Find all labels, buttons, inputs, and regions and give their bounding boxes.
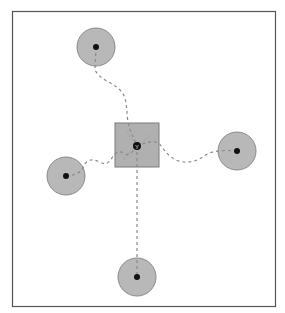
node-left-dot [63, 173, 69, 179]
node-bottom-dot [134, 274, 140, 280]
node-top-dot [93, 44, 99, 50]
diagram-canvas: Y [0, 0, 285, 313]
node-right-dot [234, 148, 240, 154]
hub-glyph: Y [135, 144, 139, 150]
